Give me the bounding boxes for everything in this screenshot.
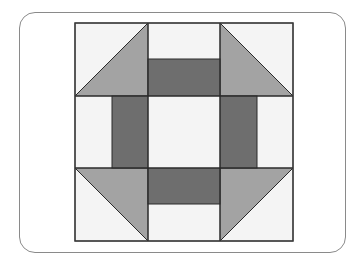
bar-left xyxy=(112,96,148,168)
bar-bottom xyxy=(148,168,220,204)
bar-right xyxy=(220,96,257,168)
quilt-block-diagram xyxy=(0,0,356,262)
bar-top xyxy=(148,59,220,96)
block-background xyxy=(75,23,293,241)
